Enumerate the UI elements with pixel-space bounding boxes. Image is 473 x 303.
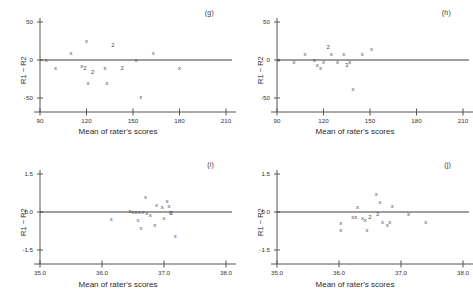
svg-text:50: 50 bbox=[263, 18, 270, 25]
data-point: 2 bbox=[83, 65, 87, 71]
svg-text:0.0: 0.0 bbox=[24, 208, 33, 215]
data-point: x bbox=[424, 219, 427, 225]
data-point: 2 bbox=[91, 69, 95, 75]
data-point: x bbox=[391, 203, 394, 209]
data-point: x bbox=[330, 51, 333, 57]
svg-text:38.0: 38.0 bbox=[457, 269, 470, 276]
data-point: x bbox=[339, 227, 342, 233]
data-point: x bbox=[348, 59, 351, 65]
data-point: x bbox=[45, 57, 48, 63]
svg-text:0: 0 bbox=[30, 56, 34, 63]
data-point: x bbox=[144, 194, 147, 200]
data-point: x bbox=[85, 38, 88, 44]
data-point: x bbox=[135, 57, 138, 63]
data-point: x bbox=[141, 209, 144, 215]
data-point: x bbox=[339, 220, 342, 226]
data-point: x bbox=[370, 46, 373, 52]
panel-h: (h) R1 − R2 Mean of rater's scores 500-5… bbox=[237, 0, 473, 151]
data-point: x bbox=[365, 227, 368, 233]
data-point: x bbox=[161, 204, 164, 210]
data-point: x bbox=[293, 59, 296, 65]
data-point: x bbox=[149, 212, 152, 218]
data-point: x bbox=[361, 51, 364, 57]
svg-text:36.0: 36.0 bbox=[333, 269, 346, 276]
svg-text:180: 180 bbox=[411, 117, 422, 124]
data-point: x bbox=[178, 65, 181, 71]
svg-text:210: 210 bbox=[221, 117, 232, 124]
svg-text:180: 180 bbox=[174, 117, 185, 124]
svg-text:-50: -50 bbox=[24, 94, 34, 101]
data-point: x bbox=[319, 65, 322, 71]
data-point: 2 bbox=[111, 42, 115, 48]
svg-text:210: 210 bbox=[458, 117, 469, 124]
svg-text:-1.5: -1.5 bbox=[259, 246, 270, 253]
panel-g: (g) R1 − R2 Mean of rater's scores 500-5… bbox=[0, 0, 236, 151]
svg-text:150: 150 bbox=[128, 117, 139, 124]
data-point: 2 bbox=[326, 44, 330, 50]
data-point: 2 bbox=[120, 65, 124, 71]
data-point: x bbox=[342, 51, 345, 57]
svg-text:1.5: 1.5 bbox=[24, 170, 33, 177]
panel-j: (j) R1 − R2 Mean of rater's scores 1.50.… bbox=[237, 152, 473, 303]
data-point: x bbox=[87, 80, 90, 86]
data-point: x bbox=[174, 233, 177, 239]
data-point: x bbox=[354, 214, 357, 220]
svg-text:36.0: 36.0 bbox=[96, 269, 109, 276]
data-point: 2 bbox=[170, 210, 174, 216]
plot-area-i: 1.50.0-1.535.036.037.038.0xxxxxxxxxxxxxx… bbox=[0, 152, 236, 303]
data-point: x bbox=[54, 65, 57, 71]
data-point: x bbox=[104, 65, 107, 71]
svg-text:120: 120 bbox=[81, 117, 92, 124]
data-point: x bbox=[163, 215, 166, 221]
data-point: x bbox=[303, 51, 306, 57]
svg-text:1.5: 1.5 bbox=[261, 170, 270, 177]
plot-area-j: 1.50.0-1.535.036.037.038.0xxxxxxxx2x3xxx… bbox=[237, 152, 473, 303]
svg-text:37.0: 37.0 bbox=[395, 269, 408, 276]
data-point: x bbox=[322, 59, 325, 65]
data-point: x bbox=[153, 222, 156, 228]
data-point: x bbox=[110, 216, 113, 222]
data-point: x bbox=[336, 59, 339, 65]
data-point: x bbox=[152, 50, 155, 56]
svg-text:120: 120 bbox=[318, 117, 329, 124]
data-point: x bbox=[381, 219, 384, 225]
svg-text:0: 0 bbox=[267, 56, 271, 63]
svg-text:90: 90 bbox=[37, 117, 44, 124]
svg-text:50: 50 bbox=[26, 18, 33, 25]
plot-area-h: 500-5090120150180210xxxxxxx2xxx3xxxx bbox=[237, 0, 473, 151]
data-point: x bbox=[155, 202, 158, 208]
data-point: x bbox=[351, 86, 354, 92]
svg-text:-50: -50 bbox=[261, 94, 271, 101]
plot-area-g: 500-5090120150180210xxxx2xx2xx22xxxx bbox=[0, 0, 236, 151]
svg-text:90: 90 bbox=[274, 117, 281, 124]
data-point: x bbox=[356, 204, 359, 210]
data-point: x bbox=[375, 191, 378, 197]
data-point: x bbox=[388, 219, 391, 225]
data-point: 2 bbox=[368, 214, 372, 220]
data-point: x bbox=[378, 199, 381, 205]
svg-text:38.0: 38.0 bbox=[220, 269, 233, 276]
data-point: x bbox=[139, 94, 142, 100]
svg-text:35.0: 35.0 bbox=[34, 269, 47, 276]
panel-i: (i) R1 − R2 Mean of rater's scores 1.50.… bbox=[0, 152, 236, 303]
svg-text:0.0: 0.0 bbox=[261, 208, 270, 215]
data-point: x bbox=[140, 225, 143, 231]
svg-text:150: 150 bbox=[365, 117, 376, 124]
data-point: x bbox=[145, 210, 148, 216]
svg-text:-1.5: -1.5 bbox=[22, 246, 33, 253]
data-point: x bbox=[138, 209, 141, 215]
svg-text:35.0: 35.0 bbox=[271, 269, 284, 276]
svg-text:37.0: 37.0 bbox=[158, 269, 171, 276]
data-point: x bbox=[364, 217, 367, 223]
data-point: x bbox=[277, 57, 280, 63]
data-point: x bbox=[70, 50, 73, 56]
data-point: x bbox=[105, 80, 108, 86]
data-point: x bbox=[136, 217, 139, 223]
data-point: x bbox=[407, 211, 410, 217]
